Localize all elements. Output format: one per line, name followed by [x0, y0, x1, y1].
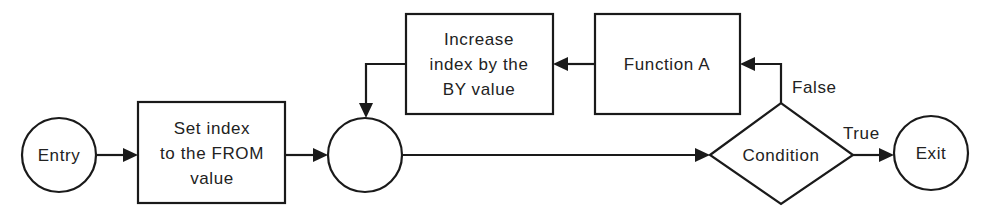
node-junction — [328, 118, 402, 192]
node-exit: Exit — [894, 116, 968, 190]
increase-index-line-1: Increase — [444, 30, 514, 49]
edge-increase-index-to-junction — [359, 64, 406, 118]
edge-entry-to-set-index — [96, 148, 138, 162]
false-label: False — [792, 78, 837, 97]
arrow-right-icon — [123, 148, 138, 162]
set-index-line-1: Set index — [174, 119, 250, 138]
exit-label: Exit — [916, 144, 947, 163]
set-index-line-2: to the FROM — [160, 144, 264, 163]
entry-label: Entry — [38, 146, 81, 165]
arrow-left-icon — [553, 57, 568, 71]
arrow-right-icon — [313, 148, 328, 162]
arrow-down-icon — [359, 103, 373, 118]
node-entry: Entry — [22, 118, 96, 192]
true-label: True — [843, 124, 880, 143]
arrow-right-icon — [879, 148, 894, 162]
condition-label: Condition — [742, 146, 819, 165]
increase-index-line-3: BY value — [443, 80, 516, 99]
flowchart-canvas: Entry Set index to the FROM value Condit… — [0, 0, 984, 218]
node-set-index: Set index to the FROM value — [138, 102, 285, 203]
node-increase-index: Increase index by the BY value — [406, 14, 553, 114]
arrow-right-icon — [695, 148, 710, 162]
edge-set-index-to-junction — [285, 148, 328, 162]
function-a-label: Function A — [624, 55, 710, 74]
set-index-line-3: value — [190, 169, 234, 188]
junction-circle — [328, 118, 402, 192]
edge-junction-to-condition — [402, 148, 710, 162]
edge-condition-to-function-a: False — [740, 57, 837, 103]
node-condition: Condition — [710, 103, 853, 204]
arrow-left-icon — [740, 57, 755, 71]
edge-function-a-to-increase-index — [553, 57, 595, 71]
node-function-a: Function A — [595, 14, 740, 114]
increase-index-line-2: index by the — [430, 55, 529, 74]
